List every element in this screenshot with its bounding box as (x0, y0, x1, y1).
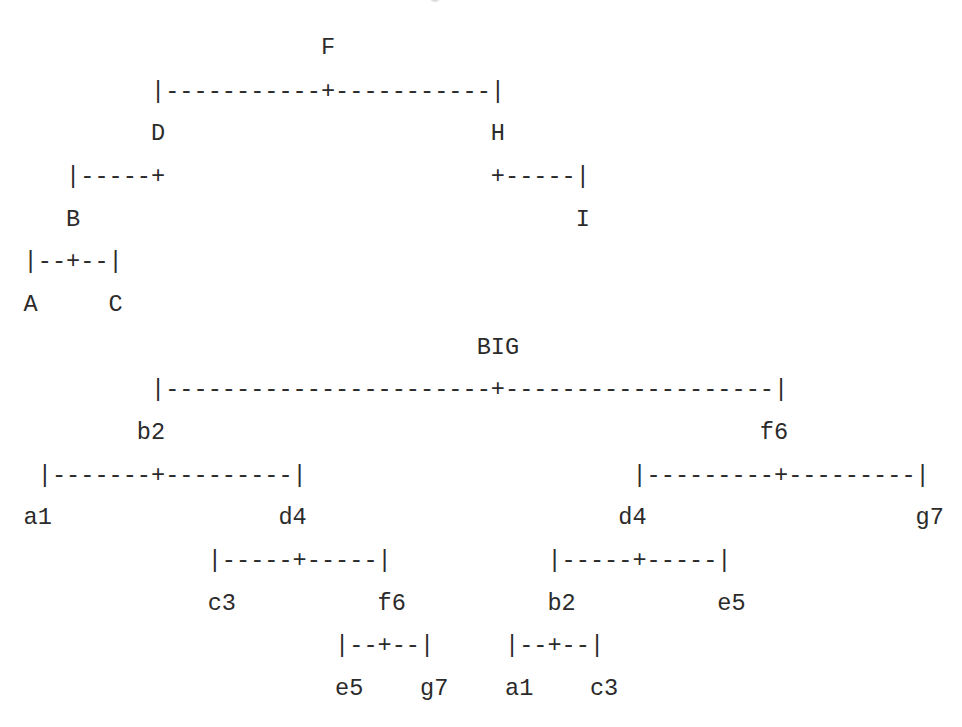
tree-row-root-BIG: BIG (24, 333, 520, 363)
tree-row-a1-d4-d4-g7: a1 d4 d4 g7 (24, 503, 944, 533)
tree-row-B-I: B I (24, 205, 590, 235)
tree-branch-F: |-----------+-----------| (24, 77, 505, 107)
tree-row-b2-f6: b2 f6 (24, 418, 789, 448)
tree-row-c3-f6-b2-e5: c3 f6 b2 e5 (24, 589, 746, 619)
tree-branch-B: |--+--| (24, 247, 123, 277)
ascii-tree-diagram: F |-----------+-----------| D H |-----+ … (0, 0, 962, 727)
tree-row-A-C: A C (24, 290, 123, 320)
tree-branch-BIG: |-----------------------+---------------… (24, 375, 789, 405)
tree-row-root-F: F (24, 33, 336, 63)
tree-branch-d4-d4: |-----+-----| |-----+-----| (24, 546, 732, 576)
tree-row-e5-g7-a1-c3: e5 g7 a1 c3 (24, 674, 619, 704)
tree-branch-b2-f6: |-------+---------| |---------+---------… (24, 461, 930, 491)
tree-branch-f6-b2: |--+--| |--+--| (24, 631, 605, 661)
cropped-glyph-fragment (430, 0, 440, 2)
tree-row-D-H: D H (24, 119, 505, 149)
tree-branch-D-H: |-----+ +-----| (24, 162, 590, 192)
